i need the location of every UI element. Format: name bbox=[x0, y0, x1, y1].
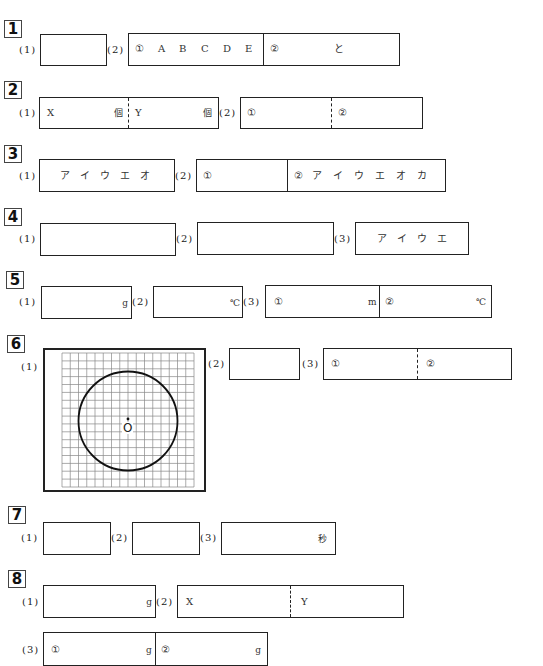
q8-3-answer-box[interactable]: ① g ② g bbox=[43, 632, 268, 666]
q2-1-y-unit: 個 bbox=[203, 107, 212, 119]
q4-3-choices: アイウエ bbox=[377, 233, 449, 245]
q1-2-connector: と bbox=[334, 43, 344, 55]
q1-2-answer-box[interactable]: ① ABCDE ② と bbox=[128, 33, 400, 66]
q5-1-unit: g bbox=[122, 297, 128, 309]
q6-1-figure-box[interactable]: O bbox=[43, 348, 206, 492]
q4-2-answer-box[interactable] bbox=[197, 222, 334, 255]
q7-1-answer-box[interactable] bbox=[43, 522, 111, 555]
q2-2-answer-box[interactable]: ① ② bbox=[240, 97, 423, 129]
q8-2-x-prefix: X bbox=[186, 596, 193, 608]
choice-c[interactable]: C bbox=[201, 43, 223, 55]
choice-ka[interactable]: カ bbox=[417, 170, 429, 182]
q7-1-label: (1) bbox=[21, 532, 38, 544]
q4-3-label: (3) bbox=[334, 233, 351, 245]
q1-1-answer-box[interactable] bbox=[40, 34, 107, 66]
q2-1-answer-box[interactable]: X 個 Y 個 bbox=[39, 97, 219, 129]
q6-2-label: (2) bbox=[208, 358, 225, 370]
faint-header-text bbox=[40, 0, 480, 6]
choice-e[interactable]: エ bbox=[375, 170, 396, 182]
q5-3-unit-2: ℃ bbox=[476, 296, 486, 308]
q8-2-answer-box[interactable]: X Y bbox=[177, 585, 404, 618]
grid-circle-figure bbox=[45, 350, 204, 490]
section-number-8: 8 bbox=[8, 570, 26, 588]
q2-2-marker-2: ② bbox=[338, 107, 347, 119]
q7-3-answer-box[interactable]: 秒 bbox=[221, 522, 336, 555]
q3-1-answer-box[interactable]: アイウエオ bbox=[39, 159, 175, 192]
choice-d[interactable]: D bbox=[223, 43, 245, 55]
q8-3-marker-1: ① bbox=[51, 644, 60, 656]
q1-1-label: (1) bbox=[19, 44, 36, 56]
q7-2-label: (2) bbox=[111, 532, 128, 544]
q3-2-marker-2: ② bbox=[294, 170, 303, 182]
q5-1-label: (1) bbox=[19, 296, 36, 308]
choice-u[interactable]: ウ bbox=[417, 233, 437, 245]
choice-i[interactable]: イ bbox=[333, 170, 354, 182]
q6-2-answer-box[interactable] bbox=[229, 348, 300, 380]
choice-e[interactable]: エ bbox=[120, 170, 140, 182]
choice-u[interactable]: ウ bbox=[354, 170, 375, 182]
section-number-5: 5 bbox=[6, 271, 24, 289]
q8-3-unit-2: g bbox=[255, 644, 261, 656]
q8-2-y-cell[interactable]: Y bbox=[290, 586, 403, 617]
q4-1-answer-box[interactable] bbox=[40, 223, 176, 256]
q2-1-x-prefix: X bbox=[47, 107, 54, 119]
choice-a[interactable]: ア bbox=[60, 170, 80, 182]
q3-2-part2-cell[interactable]: ② アイウエオカ bbox=[287, 160, 445, 191]
q5-3-marker-1: ① bbox=[274, 296, 283, 308]
choice-e[interactable]: エ bbox=[437, 233, 449, 245]
q5-3-answer-box[interactable]: ① m ② ℃ bbox=[265, 285, 492, 318]
q5-1-answer-box[interactable]: g bbox=[41, 286, 132, 319]
q2-2-part2-cell[interactable]: ② bbox=[331, 98, 422, 128]
choice-u[interactable]: ウ bbox=[100, 170, 120, 182]
q3-2-answer-box[interactable]: ① ② アイウエオカ bbox=[196, 159, 446, 192]
q3-2-marker-1: ① bbox=[203, 170, 212, 182]
q8-1-label: (1) bbox=[22, 596, 39, 608]
q2-1-y-cell[interactable]: Y 個 bbox=[128, 98, 218, 128]
q8-2-label: (2) bbox=[156, 596, 173, 608]
q1-2-marker-1: ① bbox=[135, 43, 144, 55]
q1-2-choices: ABCDE bbox=[158, 43, 257, 55]
q8-3-marker-2: ② bbox=[161, 644, 170, 656]
center-point bbox=[127, 418, 130, 421]
section-number-1: 1 bbox=[4, 20, 22, 38]
choice-a[interactable]: ア bbox=[377, 233, 397, 245]
q7-2-answer-box[interactable] bbox=[132, 522, 200, 555]
q3-1-label: (1) bbox=[19, 170, 36, 182]
q3-2-label: (2) bbox=[175, 170, 192, 182]
q2-1-x-unit: 個 bbox=[114, 107, 123, 119]
q6-3-marker-2: ② bbox=[426, 358, 435, 370]
choice-b[interactable]: B bbox=[179, 43, 201, 55]
choice-i[interactable]: イ bbox=[80, 170, 100, 182]
q6-1-label: (1) bbox=[21, 361, 38, 373]
q1-2-part2-cell[interactable]: ② と bbox=[263, 34, 399, 65]
choice-i[interactable]: イ bbox=[397, 233, 417, 245]
choice-a[interactable]: A bbox=[158, 43, 179, 55]
choice-e[interactable]: E bbox=[245, 43, 257, 55]
section-number-2: 2 bbox=[4, 81, 22, 99]
q8-3-part2-cell[interactable]: ② g bbox=[155, 633, 267, 665]
q6-3-marker-1: ① bbox=[331, 358, 340, 370]
q8-1-answer-box[interactable]: g bbox=[43, 585, 156, 618]
q8-1-unit: g bbox=[146, 596, 152, 608]
q8-3-unit-1: g bbox=[146, 644, 152, 656]
q5-2-answer-box[interactable]: ℃ bbox=[153, 286, 243, 318]
choice-a[interactable]: ア bbox=[312, 170, 333, 182]
choice-o[interactable]: オ bbox=[396, 170, 417, 182]
q4-1-label: (1) bbox=[19, 233, 36, 245]
q2-2-label: (2) bbox=[219, 107, 236, 119]
q5-3-unit-1: m bbox=[368, 296, 377, 308]
q8-2-y-prefix: Y bbox=[301, 596, 308, 608]
q4-3-answer-box[interactable]: アイウエ bbox=[355, 222, 469, 255]
section-number-7: 7 bbox=[8, 506, 26, 524]
center-label-o: O bbox=[122, 422, 133, 434]
q2-1-label: (1) bbox=[19, 107, 36, 119]
q5-2-label: (2) bbox=[132, 296, 149, 308]
q6-3-part2-cell[interactable]: ② bbox=[417, 349, 511, 379]
q4-2-label: (2) bbox=[176, 233, 193, 245]
q3-1-choices: アイウエオ bbox=[60, 170, 152, 182]
q6-3-answer-box[interactable]: ① ② bbox=[323, 348, 512, 380]
q7-3-unit: 秒 bbox=[318, 533, 327, 545]
q3-2-choices: アイウエオカ bbox=[312, 170, 429, 182]
q5-3-part2-cell[interactable]: ② ℃ bbox=[379, 286, 491, 317]
choice-o[interactable]: オ bbox=[140, 170, 152, 182]
